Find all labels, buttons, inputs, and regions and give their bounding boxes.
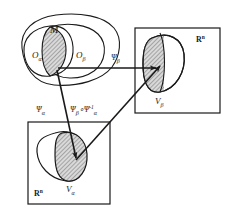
v-beta-label: Vβ xyxy=(155,96,164,108)
transition-map-label: Ψβ∘Ψ-1α xyxy=(70,104,98,116)
euclidean-beta-label: Rn xyxy=(196,34,205,44)
manifold-label: M xyxy=(49,24,59,35)
manifold-chart-diagram: M Oα Oβ Rn Vβ xyxy=(0,0,232,213)
open-set-beta-label: Oβ xyxy=(76,50,86,62)
euclidean-alpha-label: Rn xyxy=(34,188,43,198)
euclidean-space-alpha-box: Rn Vα xyxy=(28,122,110,204)
euclidean-space-beta-box: Rn Vβ xyxy=(135,28,220,113)
diagram-canvas: M Oα Oβ Rn Vβ xyxy=(0,0,232,213)
open-set-alpha-label: Oα xyxy=(32,50,43,62)
v-alpha-label: Vα xyxy=(66,184,76,196)
v-alpha-hatched-area xyxy=(55,132,87,181)
chart-map-alpha-label: Ψα xyxy=(36,105,46,116)
